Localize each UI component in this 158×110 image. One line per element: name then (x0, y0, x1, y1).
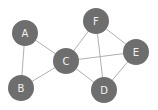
node-d-label: D (100, 85, 108, 96)
node-d: D (91, 77, 117, 103)
graph-diagram: A B C D E F (0, 0, 158, 110)
edges (21, 21, 136, 90)
node-f: F (83, 8, 109, 34)
node-e: E (123, 39, 149, 65)
node-c: C (53, 48, 79, 74)
node-f-label: F (93, 16, 99, 27)
node-e-label: E (133, 47, 139, 58)
node-a-label: A (22, 28, 29, 39)
node-c-label: C (63, 56, 70, 67)
nodes: A B C D E F (8, 8, 149, 103)
node-b-label: B (18, 83, 25, 94)
node-b: B (8, 75, 34, 101)
node-a: A (12, 20, 38, 46)
